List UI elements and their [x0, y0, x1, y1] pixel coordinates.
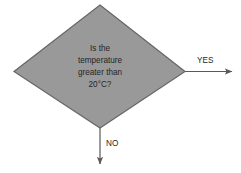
- decision-text-line-2: temperature: [78, 56, 123, 65]
- decision-text-line-1: Is the: [90, 44, 110, 53]
- decision-diamond: [14, 5, 185, 128]
- flowchart-canvas: YES NO Is the temperature greater than 2…: [0, 0, 241, 173]
- no-edge: NO: [100, 128, 118, 164]
- decision-text-line-3: greater than: [78, 68, 123, 77]
- yes-edge: YES: [185, 56, 232, 72]
- decision-text-line-4: 20°C?: [89, 80, 112, 89]
- no-label: NO: [106, 139, 118, 148]
- yes-label: YES: [197, 56, 214, 65]
- flowchart-diagram: YES NO Is the temperature greater than 2…: [0, 0, 241, 173]
